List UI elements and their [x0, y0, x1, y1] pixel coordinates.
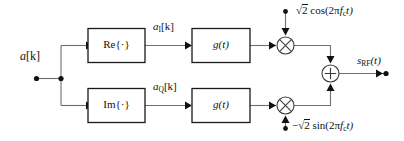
sin-source-dot [283, 126, 288, 131]
output-tail: (t) [370, 54, 380, 66]
arrowhead-into-gt-q [185, 102, 192, 110]
sin-tail: t) [346, 119, 353, 131]
inphase-tail: [k] [161, 20, 174, 32]
quadrature-tail: [k] [164, 80, 177, 92]
imag-part-text: Im{·} [103, 98, 129, 110]
real-part-text: Re{·} [103, 38, 129, 50]
block-pulse-shape-q-label: g(t) [192, 99, 250, 110]
arrowhead-into-gt-i [185, 42, 192, 50]
inphase-symbols-label: aI[k] [153, 21, 174, 33]
cos-tail: t) [346, 4, 353, 16]
sin-sqrt-icon: √2 [298, 119, 310, 131]
cos-body: cos(2π [310, 4, 339, 16]
arrowhead-into-mixer-q [269, 102, 276, 110]
cos-source-dot [283, 9, 288, 14]
input-label-bracket: [k] [26, 49, 40, 63]
block-imag-part-label: Im{·} [88, 99, 145, 110]
sine-carrier-label: −√2 sin(2πfct) [292, 119, 353, 132]
arrowhead-into-mixer-i [269, 42, 276, 50]
wire-mixer-i-to-sum [294, 46, 331, 63]
mixer-q[interactable] [277, 97, 294, 114]
quadrature-symbols-label: aQ[k] [153, 81, 177, 93]
output-terminal-dot [383, 71, 388, 76]
input-source-dot [34, 76, 39, 81]
summing-junction[interactable] [322, 65, 339, 82]
wire-mixer-q-to-sum [294, 85, 331, 106]
output-label: sRF(t) [357, 55, 381, 67]
block-diagram: a[k] Re{·} Im{·} g(t) g(t) aI[k] aQ[k] √… [0, 0, 404, 141]
arrowhead-q-into-sum [327, 84, 335, 92]
arrowhead-output [376, 70, 383, 78]
arrowhead-cos-into-mixer [282, 28, 290, 36]
cos-sqrt-icon: √2 [296, 4, 308, 16]
mixer-i[interactable] [277, 37, 294, 54]
sin-body: sin(2π [313, 119, 341, 131]
pulse-shape-i-text: g(t) [213, 38, 229, 50]
block-real-part-label: Re{·} [88, 39, 145, 50]
pulse-shape-q-text: g(t) [213, 98, 229, 110]
input-label: a[k] [20, 50, 40, 62]
block-pulse-shape-i-label: g(t) [192, 39, 250, 50]
arrowhead-i-into-sum [327, 56, 335, 64]
cosine-carrier-label: √2 cos(2πfct) [296, 4, 353, 17]
split-junction-dot [58, 76, 63, 81]
arrowhead-sin-into-mixer [282, 116, 290, 124]
